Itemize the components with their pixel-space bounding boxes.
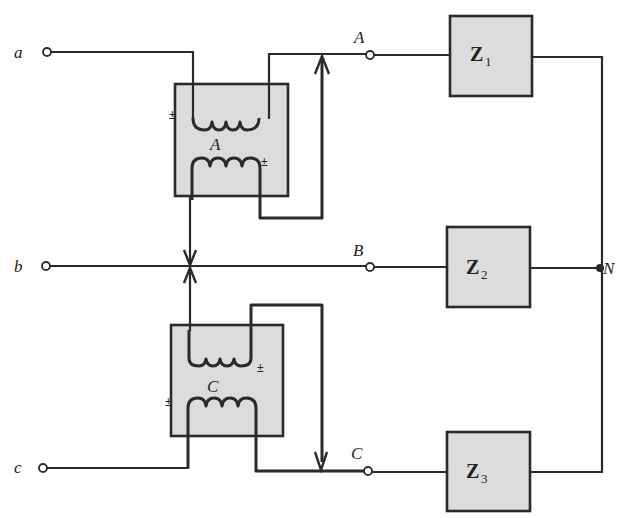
terminal-A bbox=[366, 51, 374, 59]
z3-subscript: 3 bbox=[481, 471, 488, 486]
terminal-C bbox=[364, 467, 372, 475]
z2-subscript: 2 bbox=[481, 267, 488, 282]
polarity-mark: ± bbox=[257, 361, 264, 375]
z1-symbol: Z bbox=[470, 43, 483, 65]
impedance-z3-box bbox=[447, 432, 530, 511]
label-a: a bbox=[14, 43, 23, 62]
neutral-label: N bbox=[602, 259, 616, 278]
z1-subscript: 1 bbox=[485, 54, 492, 69]
z2-symbol: Z bbox=[466, 256, 479, 278]
circuit-diagram: a b c A B C A C ± ± ± ± Z 1 Z 2 Z 3 N bbox=[0, 0, 619, 518]
label-c: c bbox=[14, 458, 22, 477]
terminal-B bbox=[366, 263, 374, 271]
transformer-a-label: A bbox=[209, 135, 221, 154]
impedance-z2-box bbox=[447, 227, 530, 307]
terminal-b bbox=[42, 262, 50, 270]
label-C: C bbox=[351, 444, 363, 463]
z3-symbol: Z bbox=[466, 460, 479, 482]
label-B: B bbox=[353, 241, 364, 260]
polarity-mark: ± bbox=[261, 155, 268, 169]
polarity-mark: ± bbox=[165, 395, 172, 409]
transformer-c-label: C bbox=[207, 377, 219, 396]
label-A: A bbox=[353, 28, 365, 47]
polarity-mark: ± bbox=[169, 108, 176, 122]
terminal-a bbox=[43, 48, 51, 56]
label-b: b bbox=[14, 257, 23, 276]
terminal-c bbox=[39, 464, 47, 472]
wire-neutral-bus bbox=[530, 57, 602, 472]
